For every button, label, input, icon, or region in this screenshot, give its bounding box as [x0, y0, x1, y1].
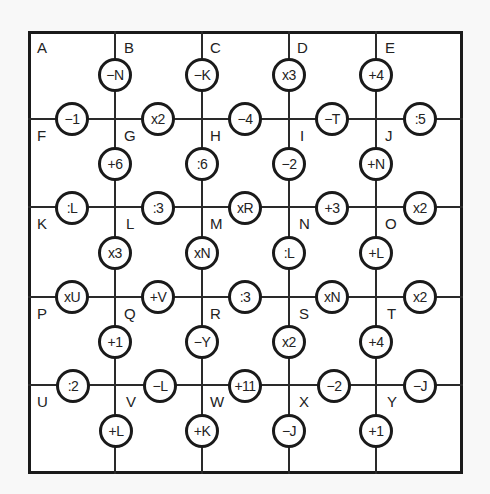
cell-label-e: E — [385, 40, 395, 55]
operator-circle[interactable]: +1 — [98, 325, 132, 359]
operator-circle[interactable]: x3 — [98, 236, 132, 270]
operator-circle[interactable]: −Y — [185, 325, 219, 359]
cell-label-w: W — [210, 394, 224, 409]
operator-circle[interactable]: +L — [359, 236, 393, 270]
operator-circle[interactable]: +K — [185, 414, 219, 448]
puzzle-board — [28, 31, 463, 474]
cell-label-o: O — [385, 216, 397, 231]
operator-circle[interactable]: xU — [55, 280, 89, 314]
cell-label-c: C — [210, 40, 221, 55]
operator-circle[interactable]: :L — [55, 191, 89, 225]
cell-label-m: M — [210, 216, 223, 231]
operator-circle[interactable]: xN — [315, 280, 349, 314]
operator-circle[interactable]: −N — [98, 58, 132, 92]
cell-label-b: B — [124, 40, 134, 55]
operator-circle[interactable]: xN — [185, 236, 219, 270]
operator-circle[interactable]: :3 — [228, 280, 262, 314]
operator-circle[interactable]: +6 — [98, 147, 132, 181]
operator-circle[interactable]: −2 — [317, 369, 351, 403]
operator-circle[interactable]: +4 — [359, 325, 393, 359]
operator-circle[interactable]: +V — [141, 280, 175, 314]
operator-circle[interactable]: −2 — [272, 147, 306, 181]
operator-circle[interactable]: :L — [272, 236, 306, 270]
cell-label-l: L — [126, 216, 134, 231]
cell-label-f: F — [37, 128, 46, 143]
operator-circle[interactable]: x3 — [272, 58, 306, 92]
operator-circle[interactable]: −J — [403, 369, 437, 403]
operator-circle[interactable]: −J — [272, 414, 306, 448]
operator-circle[interactable]: x2 — [403, 191, 437, 225]
operator-circle[interactable]: :6 — [185, 147, 219, 181]
operator-circle[interactable]: −L — [143, 369, 177, 403]
cell-label-u: U — [37, 394, 48, 409]
operator-circle[interactable]: :5 — [403, 102, 437, 136]
operator-circle[interactable]: −4 — [228, 102, 262, 136]
operator-circle[interactable]: x2 — [141, 102, 175, 136]
operator-circle[interactable]: +4 — [359, 58, 393, 92]
cell-label-n: N — [299, 216, 310, 231]
cell-label-q: Q — [124, 306, 136, 321]
operator-circle[interactable]: +11 — [228, 369, 262, 403]
operator-circle[interactable]: +N — [359, 147, 393, 181]
operator-circle[interactable]: −T — [315, 102, 349, 136]
cell-label-a: A — [37, 40, 47, 55]
operator-circle[interactable]: x2 — [403, 280, 437, 314]
cell-label-s: S — [299, 306, 309, 321]
operator-grid-puzzle: A B C D E F G H I J K L M N O P Q R S T … — [0, 0, 490, 494]
cell-label-i: I — [300, 128, 304, 143]
cell-label-x: X — [299, 394, 309, 409]
cell-label-y: Y — [387, 394, 397, 409]
cell-label-h: H — [210, 128, 221, 143]
cell-label-g: G — [124, 128, 136, 143]
operator-circle[interactable]: −1 — [55, 102, 89, 136]
cell-label-v: V — [126, 394, 136, 409]
operator-circle[interactable]: −K — [185, 58, 219, 92]
cell-label-j: J — [385, 128, 393, 143]
operator-circle[interactable]: :2 — [56, 369, 90, 403]
operator-circle[interactable]: x2 — [272, 325, 306, 359]
cell-label-p: P — [37, 306, 47, 321]
cell-label-d: D — [297, 40, 308, 55]
cell-label-t: T — [387, 306, 396, 321]
operator-circle[interactable]: xR — [228, 191, 262, 225]
operator-circle[interactable]: +L — [99, 414, 133, 448]
cell-label-k: K — [37, 216, 47, 231]
operator-circle[interactable]: :3 — [141, 191, 175, 225]
operator-circle[interactable]: +1 — [359, 414, 393, 448]
operator-circle[interactable]: +3 — [315, 191, 349, 225]
cell-label-r: R — [210, 306, 221, 321]
